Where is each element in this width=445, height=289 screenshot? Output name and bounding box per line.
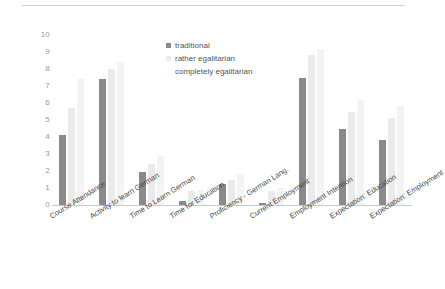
x-axis-category-label: Expectation: Employment (368, 168, 445, 221)
x-axis-category-label: Expectation: Education (328, 172, 398, 220)
x-axis-category-label: Activity to learn German (88, 171, 161, 221)
